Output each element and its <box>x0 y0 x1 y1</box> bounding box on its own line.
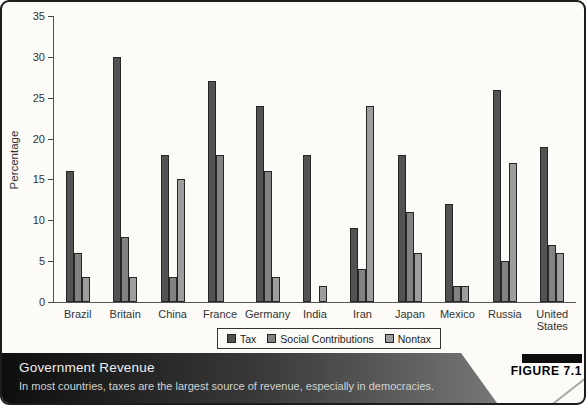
bar-mexico-tax <box>445 204 453 302</box>
bar-china-nontax <box>177 179 185 302</box>
y-tick-label: 20 <box>11 132 45 146</box>
x-category-label: Mexico <box>431 308 483 320</box>
x-category-label: China <box>147 308 199 320</box>
bar-germany-social-contributions <box>264 171 272 302</box>
x-axis-line <box>54 302 576 303</box>
bar-united-states-social-contributions <box>548 245 556 302</box>
social-contributions-swatch-icon <box>267 334 276 343</box>
x-category-label: France <box>194 308 246 320</box>
x-category-label: Russia <box>479 308 531 320</box>
bar-france-tax <box>208 81 216 302</box>
y-tick-label: 35 <box>11 9 45 23</box>
caption-subtitle: In most countries, taxes are the largest… <box>19 380 434 392</box>
bar-india-nontax <box>319 286 327 302</box>
tax-swatch-icon <box>227 334 236 343</box>
bar-india-tax <box>303 155 311 302</box>
bar-japan-tax <box>398 155 406 302</box>
bar-germany-tax <box>256 106 264 302</box>
bar-britain-nontax <box>129 277 137 302</box>
legend-item-social-contributions: Social Contributions <box>267 333 373 345</box>
figure-tab-bar <box>522 354 582 363</box>
bar-iran-tax <box>350 228 358 302</box>
legend-label: Nontax <box>398 333 431 345</box>
x-category-label: Iran <box>336 308 388 320</box>
y-tick-label: 25 <box>11 91 45 105</box>
legend-item-nontax: Nontax <box>385 333 431 345</box>
x-category-label: India <box>289 308 341 320</box>
x-category-label: Britain <box>99 308 151 320</box>
y-tick-label: 30 <box>11 50 45 64</box>
legend-label: Tax <box>240 333 256 345</box>
bar-russia-tax <box>493 90 501 302</box>
bar-iran-nontax <box>366 106 374 302</box>
x-category-label: Brazil <box>52 308 104 320</box>
bar-britain-tax <box>113 57 121 302</box>
x-category-label: Germany <box>242 308 294 320</box>
bar-russia-nontax <box>509 163 517 302</box>
x-category-label: Japan <box>384 308 436 320</box>
bar-brazil-nontax <box>82 277 90 302</box>
y-tick-label: 5 <box>11 254 45 268</box>
bar-japan-social-contributions <box>406 212 414 302</box>
x-category-label: UnitedStates <box>526 308 578 332</box>
bar-brazil-social-contributions <box>74 253 82 302</box>
bar-germany-nontax <box>272 277 280 302</box>
bar-china-social-contributions <box>169 277 177 302</box>
bar-china-tax <box>161 155 169 302</box>
caption-banner: Government Revenue In most countries, ta… <box>2 353 584 403</box>
bar-mexico-nontax <box>461 286 469 302</box>
legend-item-tax: Tax <box>227 333 256 345</box>
figure-number-label: FIGURE 7.1 <box>511 364 582 378</box>
y-axis-line <box>53 16 54 302</box>
legend-label: Social Contributions <box>280 333 373 345</box>
caption-title: Government Revenue <box>19 360 155 375</box>
bar-brazil-tax <box>66 171 74 302</box>
bar-iran-social-contributions <box>358 269 366 302</box>
diagonal-accent-line <box>551 378 585 405</box>
bar-mexico-social-contributions <box>453 286 461 302</box>
y-tick-label: 10 <box>11 213 45 227</box>
bar-united-states-nontax <box>556 253 564 302</box>
bar-japan-nontax <box>414 253 422 302</box>
bar-russia-social-contributions <box>501 261 509 302</box>
nontax-swatch-icon <box>385 334 394 343</box>
bar-france-social-contributions <box>216 155 224 302</box>
chart-legend: Tax Social Contributions Nontax <box>217 328 441 349</box>
bar-britain-social-contributions <box>121 237 129 302</box>
y-tick-label: 15 <box>11 172 45 186</box>
bar-united-states-tax <box>540 147 548 302</box>
figure-panel: Percentage 05101520253035BrazilBritainCh… <box>0 0 586 405</box>
y-tick-label: 0 <box>11 295 45 309</box>
